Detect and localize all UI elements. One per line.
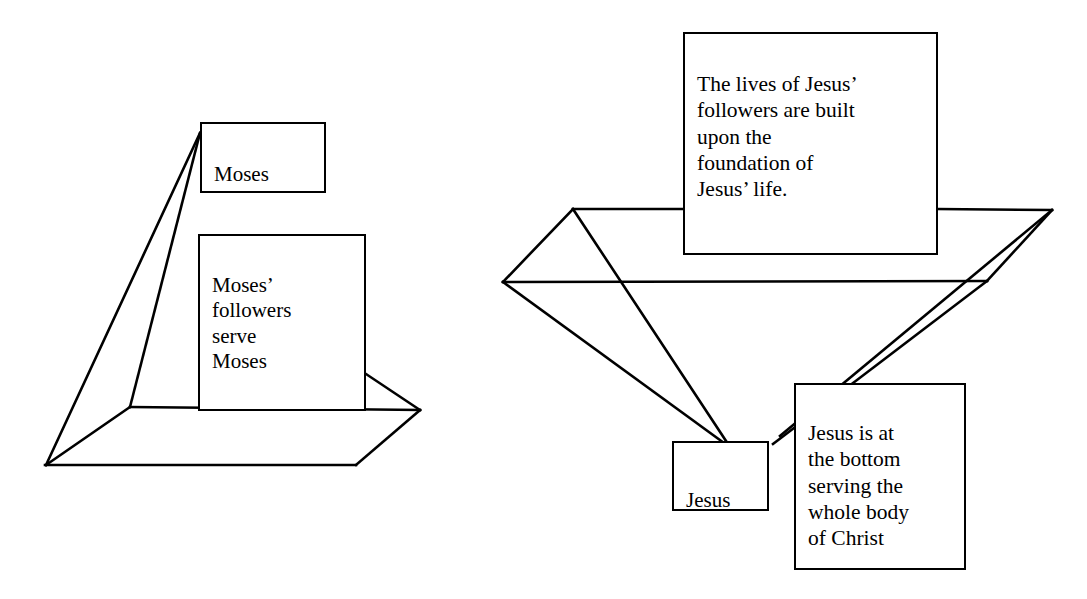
node-jesus-bottom-label: Jesus is at the bottom serving the whole…	[808, 420, 964, 551]
node-jesus-bottom[interactable]: Jesus is at the bottom serving the whole…	[794, 383, 966, 570]
funnel-rim-backleft-to-left	[503, 209, 573, 282]
node-moses-followers[interactable]: Moses’ followers serve Moses	[198, 234, 366, 411]
diagram-canvas: Moses Moses’ followers serve Moses The l…	[0, 0, 1087, 599]
node-jesus-foundation[interactable]: The lives of Jesus’ followers are built …	[683, 32, 938, 255]
node-moses-followers-label: Moses’ followers serve Moses	[212, 273, 364, 375]
node-jesus-label: Jesus	[686, 488, 767, 511]
pyramid-base-right-side	[356, 410, 420, 465]
node-jesus-foundation-label: The lives of Jesus’ followers are built …	[697, 71, 936, 202]
funnel-rim-backright-to-right	[987, 210, 1052, 281]
funnel-edge-left-to-tip	[503, 282, 724, 443]
node-moses[interactable]: Moses	[200, 122, 326, 193]
pyramid-edge-apex-to-front-left	[46, 133, 200, 465]
node-moses-label: Moses	[214, 162, 324, 188]
pyramid-edge-apex-to-back-left	[130, 133, 200, 407]
funnel-rim-back-right-segment	[937, 209, 1052, 210]
pyramid-edge-right-face	[366, 374, 420, 410]
funnel-rim-front	[503, 281, 987, 282]
node-jesus[interactable]: Jesus	[672, 441, 769, 511]
